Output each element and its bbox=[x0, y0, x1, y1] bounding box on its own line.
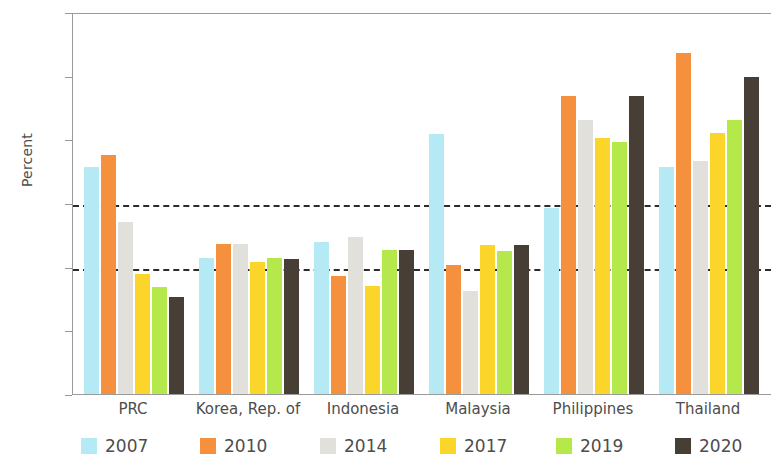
bar-2014-indonesia bbox=[348, 237, 363, 394]
bar-2017-prc bbox=[135, 274, 150, 394]
legend-swatch-icon bbox=[200, 438, 216, 454]
y-tick-mark bbox=[65, 395, 72, 396]
legend-label: 2014 bbox=[344, 436, 387, 456]
bar-2007-thailand bbox=[659, 167, 674, 394]
y-tick-mark bbox=[65, 331, 72, 332]
legend-label: 2019 bbox=[580, 436, 623, 456]
bar-2020-thailand bbox=[744, 77, 759, 394]
bar-2017-indonesia bbox=[365, 286, 380, 394]
legend-swatch-icon bbox=[440, 438, 456, 454]
legend-label: 2020 bbox=[699, 436, 742, 456]
bar-2007-malaysia bbox=[429, 134, 444, 394]
legend-item-2007[interactable]: 2007 bbox=[81, 436, 148, 456]
bar-group bbox=[199, 14, 299, 394]
bar-group bbox=[659, 14, 759, 394]
bar-group bbox=[84, 14, 184, 394]
legend-swatch-icon bbox=[556, 438, 572, 454]
bar-2014-prc bbox=[118, 222, 133, 394]
legend-label: 2017 bbox=[464, 436, 507, 456]
x-tick-label: Thailand bbox=[676, 400, 740, 418]
bar-2020-prc bbox=[169, 297, 184, 394]
y-tick-mark bbox=[65, 13, 72, 14]
y-tick-mark bbox=[65, 77, 72, 78]
bar-2014-korea-rep-of bbox=[233, 244, 248, 394]
y-tick-mark bbox=[65, 140, 72, 141]
bar-2019-prc bbox=[152, 287, 167, 394]
x-tick-label: Indonesia bbox=[327, 400, 400, 418]
bar-group bbox=[544, 14, 644, 394]
bar-2020-philippines bbox=[629, 96, 644, 394]
legend-item-2017[interactable]: 2017 bbox=[440, 436, 507, 456]
legend-swatch-icon bbox=[81, 438, 97, 454]
y-tick-mark bbox=[65, 268, 72, 269]
bar-2014-malaysia bbox=[463, 291, 478, 394]
bar-chart: Percent 050100150200250300 PRCKorea, Rep… bbox=[0, 0, 771, 475]
legend-label: 2007 bbox=[105, 436, 148, 456]
bar-2007-philippines bbox=[544, 208, 559, 394]
legend-item-2014[interactable]: 2014 bbox=[320, 436, 387, 456]
bar-2010-prc bbox=[101, 155, 116, 394]
bar-2007-prc bbox=[84, 167, 99, 394]
bar-2020-korea-rep-of bbox=[284, 259, 299, 394]
bar-2020-indonesia bbox=[399, 250, 414, 394]
plot-area bbox=[72, 13, 771, 395]
bar-2010-indonesia bbox=[331, 276, 346, 394]
bar-2010-malaysia bbox=[446, 265, 461, 394]
bar-groups bbox=[73, 14, 771, 394]
bar-2019-thailand bbox=[727, 120, 742, 394]
bar-2010-philippines bbox=[561, 96, 576, 394]
x-tick-label: Philippines bbox=[553, 400, 634, 418]
bar-2019-malaysia bbox=[497, 251, 512, 394]
bar-2010-korea-rep-of bbox=[216, 244, 231, 394]
y-axis-title: Percent bbox=[19, 105, 35, 215]
bar-2010-thailand bbox=[676, 53, 691, 394]
bar-2017-philippines bbox=[595, 138, 610, 394]
bar-2017-thailand bbox=[710, 133, 725, 394]
bar-2007-indonesia bbox=[314, 242, 329, 394]
bar-2014-philippines bbox=[578, 120, 593, 394]
legend-swatch-icon bbox=[675, 438, 691, 454]
legend-swatch-icon bbox=[320, 438, 336, 454]
x-tick-label: PRC bbox=[118, 400, 147, 418]
y-tick-mark bbox=[65, 204, 72, 205]
legend-label: 2010 bbox=[224, 436, 267, 456]
bar-group bbox=[314, 14, 414, 394]
bar-2017-malaysia bbox=[480, 245, 495, 394]
bar-2020-malaysia bbox=[514, 245, 529, 394]
bar-group bbox=[429, 14, 529, 394]
legend-item-2019[interactable]: 2019 bbox=[556, 436, 623, 456]
bar-2019-philippines bbox=[612, 142, 627, 394]
legend-item-2010[interactable]: 2010 bbox=[200, 436, 267, 456]
legend-item-2020[interactable]: 2020 bbox=[675, 436, 742, 456]
bar-2019-korea-rep-of bbox=[267, 258, 282, 394]
x-tick-label: Korea, Rep. of bbox=[196, 400, 301, 418]
bar-2019-indonesia bbox=[382, 250, 397, 394]
bar-2017-korea-rep-of bbox=[250, 262, 265, 394]
bar-2007-korea-rep-of bbox=[199, 258, 214, 394]
x-tick-label: Malaysia bbox=[445, 400, 511, 418]
bar-2014-thailand bbox=[693, 161, 708, 394]
